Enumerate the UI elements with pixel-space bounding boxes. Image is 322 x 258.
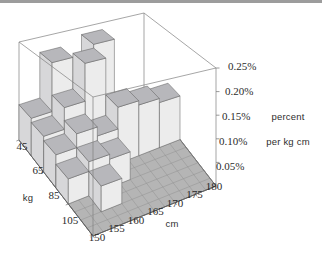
z-tick-label: 0.05%: [216, 160, 244, 172]
x-tick-label: 180: [206, 180, 223, 192]
x-tick-label: 175: [186, 188, 203, 200]
z-axis-title-line1: percent: [271, 111, 304, 122]
histogram-3d-plot: 1501551601651701751804565851050.05%0.10%…: [0, 0, 322, 258]
y-axis-title: kg: [23, 192, 33, 203]
z-tick-label: 0.15%: [222, 110, 250, 122]
y-tick-label: 45: [17, 140, 29, 152]
box-edge: [144, 13, 216, 68]
z-tick-label: 0.20%: [225, 85, 253, 97]
x-tick-label: 155: [108, 222, 125, 234]
z-tick-label: 0.25%: [228, 60, 256, 72]
x-tick-label: 160: [128, 214, 145, 226]
x-tick-label: 170: [167, 197, 184, 209]
x-axis-title: cm: [165, 218, 178, 229]
z-tick-label: 0.10%: [219, 135, 247, 147]
bar-front-face: [159, 96, 180, 148]
z-axis-title-line2: per kg cm: [266, 136, 310, 147]
y-tick-label: 85: [49, 189, 61, 201]
y-tick-label: 65: [33, 164, 45, 176]
figure-canvas: 1501551601651701751804565851050.05%0.10%…: [0, 0, 322, 258]
y-tick-label: 105: [62, 214, 79, 226]
x-tick-label: 165: [147, 205, 164, 217]
y-tick-mark: [66, 204, 69, 205]
bar-front-face: [139, 99, 160, 156]
